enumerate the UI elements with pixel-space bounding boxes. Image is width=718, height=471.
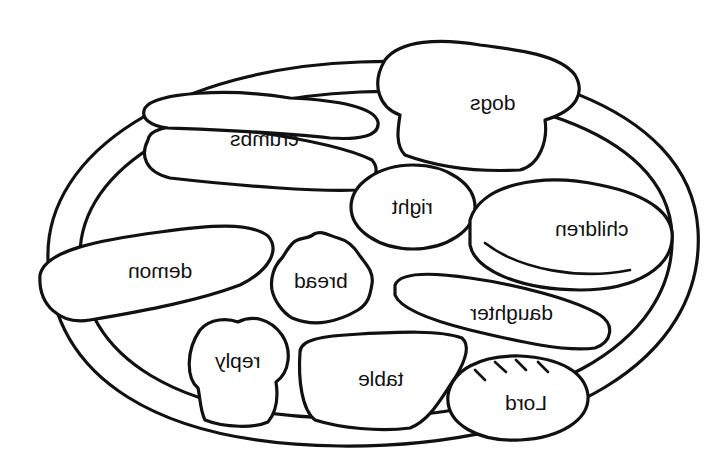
label-reply: reply: [215, 350, 261, 371]
label-lord: Lord: [505, 392, 547, 413]
label-dogs: dogs: [470, 92, 516, 113]
plate-illustration: dogs crumbs right children demon bread d…: [0, 0, 718, 471]
label-children: children: [555, 218, 629, 239]
label-demon: demon: [128, 260, 192, 281]
label-right: right: [392, 196, 433, 217]
label-crumbs: crumbs: [230, 128, 299, 149]
reply-shape: [189, 318, 288, 426]
label-table: table: [358, 368, 404, 389]
label-bread: bread: [294, 270, 348, 291]
label-daughter: daughter: [470, 302, 553, 323]
